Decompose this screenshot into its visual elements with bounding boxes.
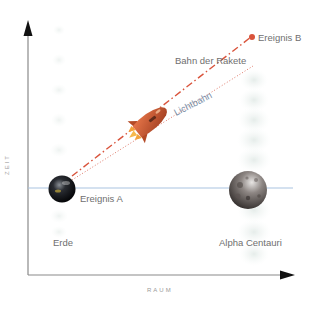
rocket-path-label: Bahn der Rakete — [175, 55, 246, 66]
earth-planet — [49, 176, 76, 203]
space-axis-label: RAUM — [147, 287, 173, 293]
earth-worldline — [50, 25, 68, 238]
light-path — [72, 66, 253, 180]
event-b-label: Ereignis B — [258, 32, 301, 43]
rocket-icon — [121, 98, 175, 149]
space-axis-arrow-icon — [280, 271, 295, 280]
spacetime-diagram: ZEIT RAUM Ereignis A Ereignis B Erde Alp… — [0, 0, 314, 312]
event-b-marker — [249, 34, 255, 40]
diagram-canvas — [0, 0, 314, 312]
event-a-label: Ereignis A — [80, 193, 123, 204]
alpha-centauri-body — [229, 171, 267, 209]
time-axis-label: ZEIT — [4, 154, 10, 175]
earth-label: Erde — [53, 237, 73, 248]
time-axis-arrow-icon — [24, 20, 33, 36]
alpha-centauri-label: Alpha Centauri — [219, 237, 282, 248]
